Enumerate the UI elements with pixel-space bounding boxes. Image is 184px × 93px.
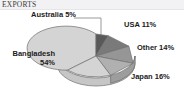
chart-screenshot: EXPORTS <box>0 0 184 93</box>
pie-label-australia: Australia 5% <box>31 11 76 20</box>
pie-label-usa: USA 11% <box>124 21 156 30</box>
page-title: EXPORTS <box>2 0 36 9</box>
pie-chart-plot-area: Australia 5% USA 11% Other 14% Japan 16%… <box>0 9 184 93</box>
pie-label-bangladesh: Bangladesh 54% <box>3 50 55 67</box>
pie-label-bangladesh-value: 54% <box>40 58 55 67</box>
pie-label-japan: Japan 16% <box>131 73 170 82</box>
pie-label-other: Other 14% <box>137 44 174 53</box>
